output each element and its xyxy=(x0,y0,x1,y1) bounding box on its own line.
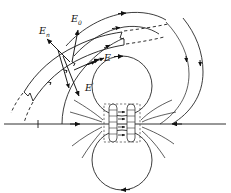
field-arrow-right-upper xyxy=(186,56,187,62)
field-line-left-in-1 xyxy=(74,100,103,120)
field-line-outer-right xyxy=(172,18,203,124)
field-line-top-arc xyxy=(66,12,166,46)
angle-tick-3 xyxy=(48,82,51,85)
coil-assembly xyxy=(104,104,140,142)
field-vectors xyxy=(47,30,104,96)
dipole-loops xyxy=(92,56,152,190)
band-dashed-extension-left-2 xyxy=(24,102,33,123)
label-e-zero: E xyxy=(70,13,78,24)
field-diagram: E 0 E n E E ' xyxy=(0,0,231,193)
curved-band xyxy=(11,24,168,123)
label-e-zero-subscript: 0 xyxy=(78,19,82,26)
label-e-n: E xyxy=(38,25,46,36)
band-cap-right xyxy=(120,32,124,45)
label-e-prime: E xyxy=(84,82,92,93)
band-dashed-extension-lower xyxy=(126,37,164,44)
field-arrow-top-arc xyxy=(118,13,126,14)
field-line-left-in-2 xyxy=(70,112,102,122)
band-dashed-extension-left xyxy=(11,93,23,113)
label-e-prime-mark: ' xyxy=(92,81,94,88)
field-line-left-out-2 xyxy=(82,131,102,158)
band-dashed-extension-upper xyxy=(124,24,168,31)
field-line-right-out-2 xyxy=(142,131,165,158)
vector-e-zero xyxy=(72,30,78,62)
angle-tick-1 xyxy=(72,62,75,66)
field-loop-lower xyxy=(92,130,152,190)
label-e-tangential: E xyxy=(103,52,111,63)
field-line-right-in-2 xyxy=(142,112,176,122)
field-line-outer-right-2 xyxy=(160,22,189,124)
band-cap-left xyxy=(24,92,33,101)
field-loop-upper xyxy=(92,56,152,116)
figure-root: E 0 E n E E ' xyxy=(0,0,231,193)
label-e-n-subscript: n xyxy=(46,31,50,38)
